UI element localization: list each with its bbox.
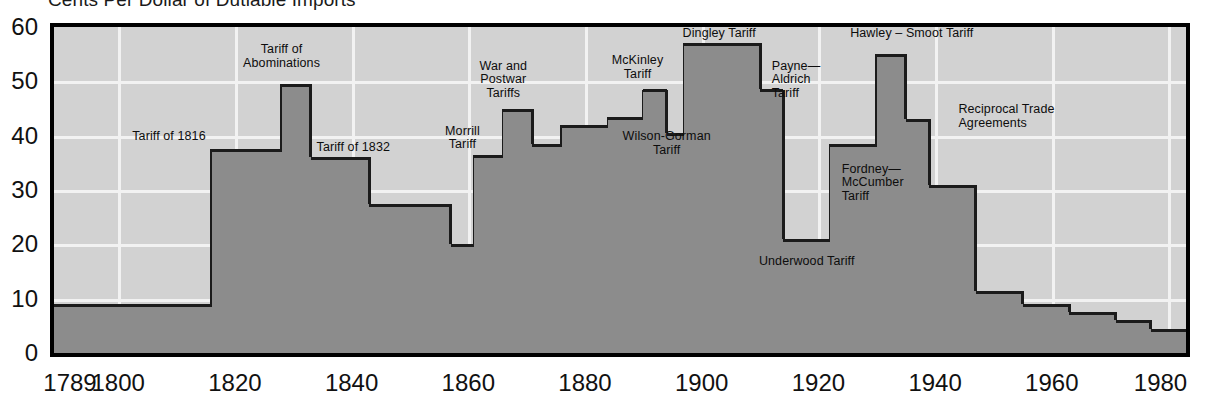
area-step bbox=[282, 84, 311, 353]
x-axis-tick: 1900 bbox=[675, 369, 728, 397]
area-step-edge bbox=[1068, 304, 1071, 312]
area-step bbox=[760, 89, 783, 353]
area-step-edge bbox=[782, 90, 785, 239]
area-step bbox=[54, 304, 212, 353]
y-axis-tick: 10 bbox=[11, 285, 38, 313]
annotation-payne-aldrich-tariff: Payne— Aldrich Tariff bbox=[772, 60, 821, 101]
x-axis-tick: 1960 bbox=[1025, 369, 1078, 397]
y-axis-tick: 20 bbox=[11, 230, 38, 258]
chart-title: Cents Per Dollar of Dutiable Imports bbox=[48, 0, 356, 11]
x-axis-tick: 1980 bbox=[1134, 369, 1187, 397]
x-axis-tick: 1920 bbox=[792, 369, 845, 397]
area-step bbox=[667, 133, 685, 353]
area-step bbox=[451, 244, 474, 353]
annotation-dingley-tariff: Dingley Tariff bbox=[683, 27, 756, 41]
annotation-tariff-of-1832: Tariff of 1832 bbox=[317, 141, 390, 155]
area-step-edge bbox=[1149, 320, 1152, 328]
area-step-edge bbox=[665, 90, 668, 133]
area-step bbox=[877, 54, 906, 353]
area-step-edge bbox=[974, 185, 977, 291]
x-axis-tick: 1820 bbox=[208, 369, 261, 397]
area-step bbox=[1023, 304, 1070, 353]
area-step bbox=[474, 155, 503, 353]
annotation-war-and-postwar-tariffs: War and Postwar Tariffs bbox=[480, 60, 527, 101]
x-axis-tick: 1860 bbox=[442, 369, 495, 397]
area-step-edge bbox=[309, 84, 312, 157]
x-axis-labels: 1789180018201840186018801900192019401960… bbox=[0, 363, 1210, 407]
area-step bbox=[212, 149, 282, 353]
area-step bbox=[532, 144, 561, 353]
area-step bbox=[1069, 312, 1116, 353]
y-axis-tick: 40 bbox=[11, 122, 38, 150]
area-step-edge bbox=[904, 54, 907, 119]
y-axis-tick: 50 bbox=[11, 67, 38, 95]
x-axis-tick: 1789 bbox=[43, 369, 96, 397]
area-step-edge bbox=[368, 157, 371, 203]
x-axis-tick: 1880 bbox=[558, 369, 611, 397]
x-axis-tick: 1840 bbox=[325, 369, 378, 397]
area-step bbox=[1151, 329, 1186, 353]
area-step bbox=[684, 43, 760, 353]
annotation-morrill-tariff: Morrill Tariff bbox=[445, 125, 480, 152]
y-axis-labels: 0102030405060 bbox=[0, 0, 46, 407]
area-step bbox=[369, 204, 451, 353]
area-step bbox=[1116, 320, 1151, 353]
area-step bbox=[503, 109, 532, 354]
y-axis-tick: 30 bbox=[11, 176, 38, 204]
area-step-edge bbox=[531, 109, 534, 144]
area-step bbox=[976, 291, 1023, 353]
tariff-history-chart: Cents Per Dollar of Dutiable Imports 010… bbox=[0, 0, 1210, 407]
area-step-edge bbox=[1021, 291, 1024, 305]
area-step-edge bbox=[759, 43, 762, 89]
area-step bbox=[562, 125, 609, 353]
y-axis-tick: 60 bbox=[11, 13, 38, 41]
annotation-fordney-mccumber-tariff: Fordney— McCumber Tariff bbox=[842, 163, 904, 204]
x-axis-tick: 1800 bbox=[91, 369, 144, 397]
annotation-mckinley-tariff: McKinley Tariff bbox=[612, 54, 664, 81]
annotation-reciprocal-trade-agreements: Reciprocal Trade Agreements bbox=[958, 103, 1054, 130]
area-step bbox=[906, 119, 929, 353]
annotation-hawley-smoot-tariff: Hawley – Smoot Tariff bbox=[850, 27, 973, 41]
area-step-edge bbox=[928, 119, 931, 184]
area-step bbox=[929, 185, 976, 353]
x-axis-tick: 1940 bbox=[908, 369, 961, 397]
area-step-edge bbox=[449, 204, 452, 245]
area-step-edge bbox=[1114, 312, 1117, 320]
annotation-tariff-of-1816: Tariff of 1816 bbox=[132, 130, 205, 144]
annotation-wilson-gorman-tariff: Wilson-Gorman Tariff bbox=[623, 130, 711, 157]
area-step bbox=[311, 157, 369, 353]
annotation-tariff-of-abominations: Tariff of Abominations bbox=[243, 43, 320, 70]
annotation-underwood-tariff: Underwood Tariff bbox=[759, 255, 855, 269]
